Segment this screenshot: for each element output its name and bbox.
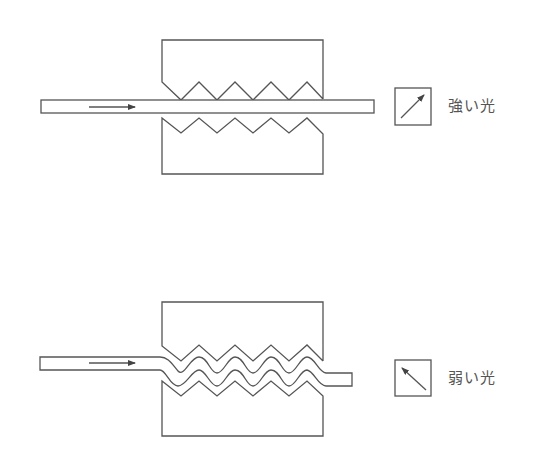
- strong-light-label: 強い光: [448, 99, 496, 114]
- bottom-upper-die: [162, 302, 323, 361]
- bottom-panel: [40, 302, 431, 436]
- diagram-canvas: 強い光 弱い光: [0, 0, 533, 473]
- bottom-lower-die: [162, 381, 323, 436]
- top-panel: [41, 40, 431, 174]
- microbend-sensor-diagram: [0, 0, 533, 473]
- top-upper-die: [162, 40, 323, 100]
- weak-light-label: 弱い光: [448, 371, 496, 386]
- bottom-fiber-strip: [40, 357, 352, 386]
- meter-arrow-up-left-icon: [402, 368, 426, 390]
- meter-arrow-up-right-icon: [401, 95, 424, 118]
- top-lower-die: [162, 118, 323, 174]
